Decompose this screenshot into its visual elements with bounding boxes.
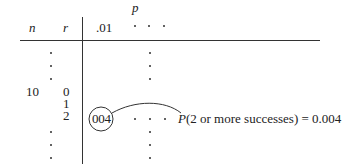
ellipsis-dot [149, 144, 151, 146]
probability-function: P [178, 111, 186, 126]
ellipsis-dot [149, 157, 151, 159]
annotation-overlay [0, 0, 345, 168]
annotation-text: P(2 or more successes) = 0.004 [178, 111, 341, 127]
highlighted-entry: 004 [92, 111, 111, 127]
annotation-arrow [112, 103, 181, 113]
ellipsis-dot [50, 144, 52, 146]
ellipsis-dot [50, 157, 52, 159]
ellipsis-dot [164, 118, 166, 120]
ellipsis-dot [149, 118, 151, 120]
annotation-expression: (2 or more successes) = 0.004 [186, 111, 341, 126]
ellipsis-dot [149, 131, 151, 133]
ellipsis-dot [50, 131, 52, 133]
ellipsis-dot [134, 118, 136, 120]
